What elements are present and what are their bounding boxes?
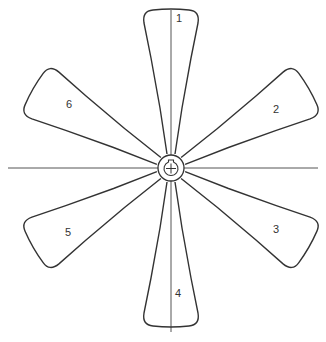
blade-2 [169,65,322,185]
blade-label-3: 3 [273,223,279,235]
blade-label-4: 4 [175,287,181,299]
hub [158,155,184,181]
blade-label-6: 6 [66,98,72,110]
blade-label-5: 5 [65,226,71,238]
blade-5 [20,151,173,271]
blade-label-1: 1 [176,12,182,24]
blade-3 [169,151,322,271]
blade-label-2: 2 [273,103,279,115]
blade-6 [20,65,173,185]
fan-blade-diagram: 123456 [0,0,326,342]
